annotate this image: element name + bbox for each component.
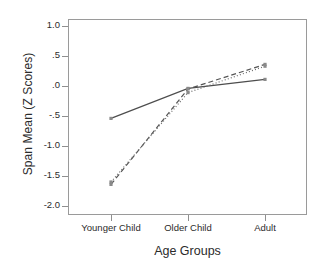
y-axis-tick-label: 1.0 (26, 19, 60, 30)
y-axis-tick-label: .5 (26, 49, 60, 60)
x-axis-title: Age Groups (68, 244, 307, 258)
y-axis-tick-label: -1.5 (26, 169, 60, 180)
y-axis-tick-label: -1.0 (26, 139, 60, 150)
plot-area (68, 19, 307, 215)
x-axis-tick-label: Adult (220, 222, 310, 233)
x-axis-tick-mark (111, 215, 112, 221)
y-axis-tick-label: -2.0 (26, 199, 60, 210)
x-axis-tick-mark (188, 215, 189, 221)
y-axis-tick-label: -.5 (26, 109, 60, 120)
y-axis-tick-label: .0 (26, 79, 60, 90)
y-axis-tick-group: 1.0.5.0-.5-1.0-1.5-2.0 (20, 0, 60, 270)
chart-figure: Span Mean (Z Scores) 1.0.5.0-.5-1.0-1.5-… (0, 0, 329, 270)
x-axis-tick-mark (265, 215, 266, 221)
